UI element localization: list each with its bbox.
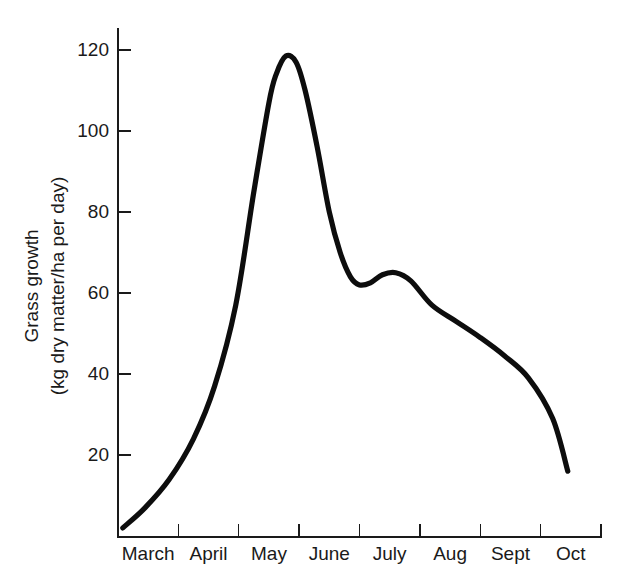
y-tick-label: 100 (77, 120, 109, 141)
x-tick-label-june: June (309, 543, 350, 564)
x-tick-label-oct: Oct (556, 543, 586, 564)
x-tick-label-may: May (251, 543, 287, 564)
chart-canvas: Grass growth (kg dry matter/ha per day) … (0, 0, 630, 586)
x-axis-tick-labels: MarchAprilMayJuneJulyAugSeptOct (122, 543, 587, 564)
y-axis-ticks: 20406080100120 (77, 39, 131, 465)
y-axis-title-group: Grass growth (kg dry matter/ha per day) (21, 177, 68, 396)
x-tick-label-july: July (373, 543, 407, 564)
y-tick-label: 60 (88, 282, 109, 303)
y-tick-label: 80 (88, 201, 109, 222)
x-tick-label-march: March (122, 543, 175, 564)
x-tick-label-aug: Aug (433, 543, 467, 564)
grass-growth-chart: Grass growth (kg dry matter/ha per day) … (0, 0, 630, 586)
y-tick-label: 20 (88, 444, 109, 465)
y-axis-title-line-1: Grass growth (21, 230, 42, 343)
grass-growth-curve (123, 55, 568, 528)
x-tick-label-april: April (190, 543, 228, 564)
x-tick-label-sept: Sept (491, 543, 531, 564)
x-axis-ticks (118, 524, 601, 538)
y-tick-label: 40 (88, 363, 109, 384)
y-tick-label: 120 (77, 39, 109, 60)
y-axis-title-line-2: (kg dry matter/ha per day) (47, 177, 68, 396)
